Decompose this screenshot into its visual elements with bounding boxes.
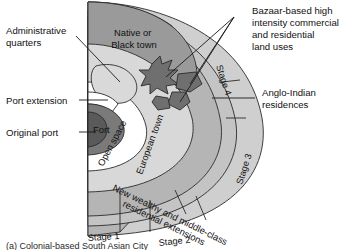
colonial-city-model-diagram: Native or Black town Fort Open space Eur… [0,0,345,250]
figure-root: Native or Black town Fort Open space Eur… [0,0,345,250]
callout-original-port: Original port [6,127,59,138]
callout-administrative-quarters: Administrative quarters [6,25,69,48]
figure-caption-strip: (a) Colonial-based South Asian City [0,241,345,250]
callout-port-extension: Port extension [6,95,67,106]
callout-anglo-indian-residences: Anglo-Indian residences [262,87,319,110]
callout-bazaar-based-land-uses: Bazaar-based high intensity commercial a… [252,5,342,52]
zone-label-fort: Fort [93,124,110,135]
figure-caption: (a) Colonial-based South Asian City [6,241,148,250]
zone-label-native-or-black-town: Native or Black town [111,27,156,50]
